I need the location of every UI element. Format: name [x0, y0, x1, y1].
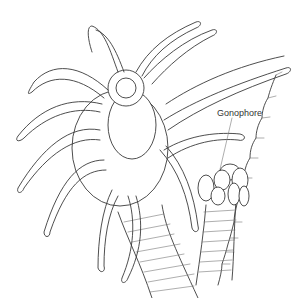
hydroid-drawing — [0, 0, 296, 298]
gonophore — [228, 183, 240, 205]
hydranth — [72, 70, 168, 206]
gonophore — [211, 187, 225, 205]
gonophore-label: Gonophore — [217, 108, 262, 118]
hydroid-illustration: Gonophore — [0, 0, 296, 298]
gonophore — [239, 186, 249, 206]
gonozooid — [196, 164, 249, 285]
